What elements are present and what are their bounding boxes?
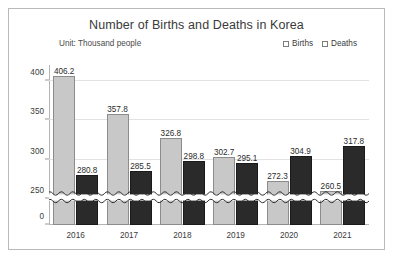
bar-value-label: 302.7 bbox=[214, 148, 235, 157]
y-tick-mark bbox=[45, 119, 49, 120]
legend-swatch-deaths bbox=[322, 41, 328, 47]
x-tick-label: 2016 bbox=[67, 231, 85, 240]
gridline bbox=[49, 119, 369, 120]
bar-deaths-2021[interactable]: 317.8 bbox=[343, 146, 365, 225]
gridline bbox=[49, 159, 369, 160]
bar-value-label: 260.5 bbox=[321, 182, 342, 191]
bar-value-label: 304.9 bbox=[290, 147, 311, 156]
bar-deaths-2016[interactable]: 280.8 bbox=[76, 175, 98, 225]
y-tick-label: 300 bbox=[30, 146, 44, 155]
legend-swatch-births bbox=[283, 41, 289, 47]
unit-label: Unit: Thousand people bbox=[59, 39, 141, 48]
bar-value-label: 295.1 bbox=[237, 154, 258, 163]
x-tick-label: 2019 bbox=[227, 231, 245, 240]
x-tick-label: 2017 bbox=[120, 231, 138, 240]
bar-births-2019[interactable]: 302.7 bbox=[213, 157, 235, 225]
legend-item-births[interactable]: Births bbox=[283, 39, 313, 48]
chart-title: Number of Births and Deaths in Korea bbox=[9, 18, 384, 32]
y-axis-line bbox=[49, 65, 50, 225]
bar-births-2018[interactable]: 326.8 bbox=[160, 138, 182, 225]
bar-births-2020[interactable]: 272.3 bbox=[267, 181, 289, 225]
bar-value-label: 280.8 bbox=[77, 166, 98, 175]
y-tick-label: 250 bbox=[30, 186, 44, 195]
chart-figure: Number of Births and Deaths in Korea Uni… bbox=[8, 8, 385, 250]
bar-births-2016[interactable]: 406.2 bbox=[53, 76, 75, 225]
bar-deaths-2017[interactable]: 285.5 bbox=[130, 171, 152, 225]
bar-value-label: 357.8 bbox=[107, 105, 128, 114]
bar-deaths-2018[interactable]: 298.8 bbox=[183, 161, 205, 225]
bar-value-label: 326.8 bbox=[161, 129, 182, 138]
legend-item-deaths[interactable]: Deaths bbox=[322, 39, 357, 48]
bar-value-label: 285.5 bbox=[130, 162, 151, 171]
bar-value-label: 406.2 bbox=[54, 67, 75, 76]
legend-label-deaths: Deaths bbox=[331, 39, 357, 48]
bar-value-label: 317.8 bbox=[344, 137, 365, 146]
y-tick-label: 0 bbox=[39, 212, 44, 221]
y-tick-mark bbox=[45, 198, 49, 199]
bar-value-label: 298.8 bbox=[184, 152, 205, 161]
y-tick-label: 400 bbox=[30, 67, 44, 76]
y-tick-label: 350 bbox=[30, 107, 44, 116]
bar-births-2017[interactable]: 357.8 bbox=[107, 114, 129, 225]
bar-births-2021[interactable]: 260.5 bbox=[320, 191, 342, 225]
gridline bbox=[49, 80, 369, 81]
chart-legend: Births Deaths bbox=[283, 39, 357, 48]
plot-area: 0250300350400 406.2280.8357.8285.5326.82… bbox=[49, 65, 369, 225]
bar-deaths-2019[interactable]: 295.1 bbox=[236, 163, 258, 225]
y-tick-mark bbox=[45, 158, 49, 159]
bar-deaths-2020[interactable]: 304.9 bbox=[290, 156, 312, 225]
legend-label-births: Births bbox=[292, 39, 313, 48]
x-tick-label: 2018 bbox=[173, 231, 191, 240]
bar-value-label: 272.3 bbox=[267, 172, 288, 181]
y-tick-mark bbox=[45, 79, 49, 80]
x-tick-label: 2020 bbox=[280, 231, 298, 240]
y-tick-mark bbox=[45, 224, 49, 225]
x-tick-label: 2021 bbox=[333, 231, 351, 240]
